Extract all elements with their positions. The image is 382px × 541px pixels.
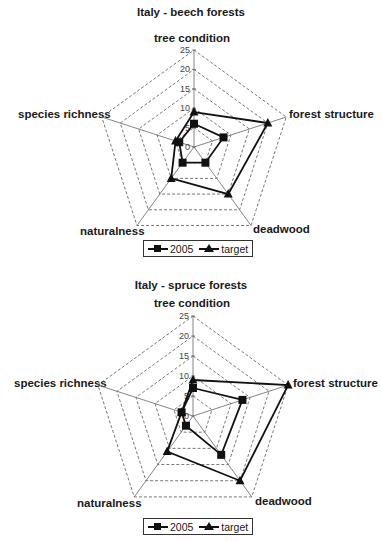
legend-item-target: target [199, 521, 248, 533]
square-marker-icon [148, 244, 168, 254]
legend-item-2005: 2005 [148, 243, 193, 255]
triangle-marker-icon [199, 244, 219, 254]
square-marker-icon [148, 522, 168, 532]
legend-label: target [221, 521, 248, 533]
legend-label: 2005 [170, 243, 193, 255]
legend-label: 2005 [170, 521, 193, 533]
svg-text:15: 15 [179, 351, 189, 361]
radar-chart-spruce: Italy - spruce forests tree condition fo… [0, 270, 382, 541]
radar-plot: 0510152025 [0, 270, 382, 541]
legend-item-2005: 2005 [148, 521, 193, 533]
triangle-marker-icon [199, 522, 219, 532]
svg-text:25: 25 [180, 45, 190, 55]
legend-label: target [221, 243, 248, 255]
radar-plot: 0510152025 [0, 0, 382, 270]
radar-chart-beech: Italy - beech forests tree condition for… [0, 0, 382, 270]
svg-text:20: 20 [180, 64, 190, 74]
svg-text:0: 0 [185, 142, 190, 152]
svg-text:10: 10 [179, 371, 189, 381]
legend: 2005 target [143, 518, 253, 535]
legend-item-target: target [199, 243, 248, 255]
svg-text:20: 20 [179, 331, 189, 341]
legend: 2005 target [143, 240, 253, 257]
svg-text:10: 10 [180, 103, 190, 113]
svg-text:25: 25 [179, 311, 189, 321]
svg-text:15: 15 [180, 84, 190, 94]
